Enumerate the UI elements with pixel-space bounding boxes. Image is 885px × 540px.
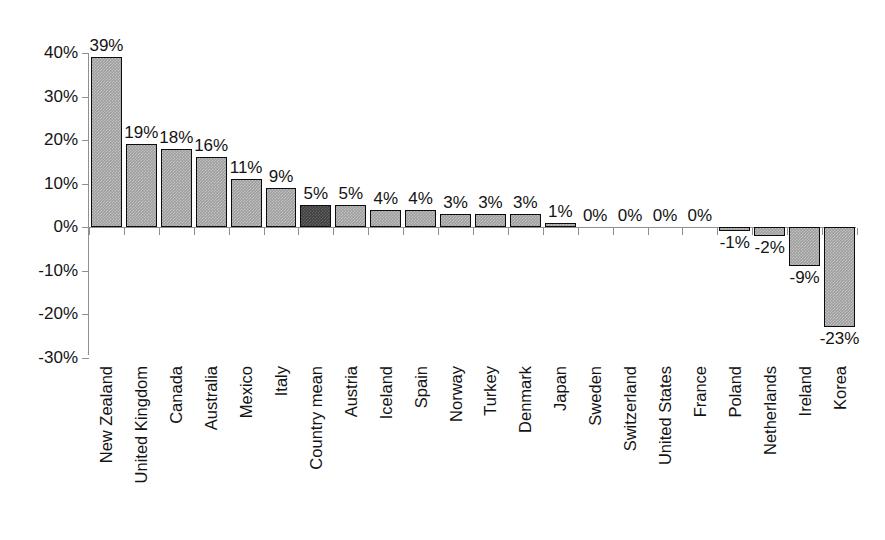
x-axis-category-label: Denmark	[517, 366, 534, 433]
y-axis-tick-label: -30%	[4, 349, 78, 366]
x-axis-tick-mark	[857, 228, 858, 235]
x-axis-category-label: Korea	[831, 366, 848, 410]
bar-group[interactable]: 11%	[229, 30, 264, 360]
x-axis-category[interactable]: Poland	[717, 366, 752, 526]
x-axis-category[interactable]: Denmark	[508, 366, 543, 526]
x-axis-category[interactable]: Sweden	[578, 366, 613, 526]
x-axis-category-label: Japan	[552, 366, 569, 411]
bar[interactable]	[126, 144, 157, 227]
x-axis-category[interactable]: Iceland	[368, 366, 403, 526]
x-axis-category[interactable]: Austria	[333, 366, 368, 526]
bar[interactable]	[161, 149, 192, 227]
x-axis-tick-mark	[229, 228, 230, 235]
x-axis-category-label: Iceland	[377, 366, 394, 419]
bar-group[interactable]: -23%	[822, 30, 857, 360]
x-axis-tick-mark	[89, 228, 90, 235]
x-axis-category[interactable]: United States	[648, 366, 683, 526]
bar-group[interactable]: 0%	[648, 30, 683, 360]
y-axis-tick-label: 40%	[4, 44, 78, 61]
x-axis-category[interactable]: Japan	[543, 366, 578, 526]
bar-group[interactable]: 0%	[613, 30, 648, 360]
x-axis-category[interactable]: Turkey	[473, 366, 508, 526]
x-axis-tick-mark	[752, 228, 753, 235]
x-axis-tick-mark	[194, 228, 195, 235]
x-axis-category[interactable]: Spain	[403, 366, 438, 526]
bar-group[interactable]: 3%	[508, 30, 543, 360]
y-axis-tick-mark	[82, 358, 89, 359]
x-axis-category-label: Australia	[203, 366, 220, 430]
bar[interactable]	[824, 227, 855, 327]
bar-group[interactable]: 0%	[682, 30, 717, 360]
x-axis-tick-mark	[508, 228, 509, 235]
x-axis-tick-mark	[822, 228, 823, 235]
bar-chart: 40%30%20%10%0%-10%-20%-30% 39%19%18%16%1…	[0, 0, 885, 540]
x-axis-category[interactable]: Korea	[822, 366, 857, 526]
bar-group[interactable]: 18%	[159, 30, 194, 360]
x-axis-tick-mark	[543, 228, 544, 235]
x-axis-category-label: Canada	[168, 366, 185, 424]
y-axis-tick-label: 0%	[4, 218, 78, 235]
x-axis-tick-mark	[682, 228, 683, 235]
x-axis-tick-mark	[787, 228, 788, 235]
bar[interactable]	[440, 214, 471, 227]
x-axis-category-label: United States	[656, 366, 673, 465]
x-axis-category-label: Switzerland	[622, 366, 639, 451]
bar-group[interactable]: 19%	[124, 30, 159, 360]
x-axis-category-label: Austria	[342, 366, 359, 417]
x-axis-tick-mark	[333, 228, 334, 235]
y-axis-tick-label: 10%	[4, 175, 78, 192]
x-axis-tick-mark	[368, 228, 369, 235]
bar[interactable]	[335, 205, 366, 227]
x-axis-category-label: Netherlands	[761, 366, 778, 455]
x-axis-category-label: Spain	[412, 366, 429, 408]
x-axis-category[interactable]: Canada	[159, 366, 194, 526]
x-axis-tick-mark	[438, 228, 439, 235]
x-axis-category[interactable]: Switzerland	[613, 366, 648, 526]
x-axis-category-label: Sweden	[587, 366, 604, 426]
bar-group[interactable]: -9%	[787, 30, 822, 360]
x-axis-category[interactable]: New Zealand	[89, 366, 124, 526]
bar-group[interactable]: 1%	[543, 30, 578, 360]
x-axis-ticks	[89, 228, 857, 236]
x-axis-category[interactable]: Country mean	[298, 366, 333, 526]
x-axis-category-label: Country mean	[307, 366, 324, 470]
x-axis-tick-mark	[403, 228, 404, 235]
x-axis-tick-mark	[613, 228, 614, 235]
x-axis-tick-mark	[124, 228, 125, 235]
bar[interactable]	[231, 179, 262, 227]
x-axis-category-label: France	[691, 366, 708, 417]
x-axis-category-label: Poland	[726, 366, 743, 417]
bar-group[interactable]: -2%	[752, 30, 787, 360]
x-axis-category[interactable]: Netherlands	[752, 366, 787, 526]
x-axis-category-label: Italy	[272, 366, 289, 396]
x-axis-tick-mark	[648, 228, 649, 235]
x-axis-category[interactable]: Italy	[264, 366, 299, 526]
x-axis-category-label: United Kingdom	[133, 366, 150, 483]
x-axis-category-label: Ireland	[796, 366, 813, 416]
bar-group[interactable]: -1%	[717, 30, 752, 360]
x-axis-tick-mark	[717, 228, 718, 235]
x-axis-category[interactable]: Ireland	[787, 366, 822, 526]
x-axis-category-label: Mexico	[238, 366, 255, 418]
x-axis-tick-mark	[578, 228, 579, 235]
x-axis-category-label: New Zealand	[98, 366, 115, 463]
x-axis-category[interactable]: France	[682, 366, 717, 526]
bar[interactable]	[370, 210, 401, 227]
x-axis-tick-mark	[264, 228, 265, 235]
x-axis-category[interactable]: Norway	[438, 366, 473, 526]
x-axis-category[interactable]: Mexico	[229, 366, 264, 526]
bar-value-label: -23%	[813, 330, 866, 348]
bar[interactable]	[475, 214, 506, 227]
x-axis-category-label: Turkey	[482, 366, 499, 416]
x-axis-labels: New ZealandUnited KingdomCanadaAustralia…	[89, 366, 857, 536]
x-axis-category[interactable]: Australia	[194, 366, 229, 526]
x-axis-category[interactable]: United Kingdom	[124, 366, 159, 526]
x-axis-tick-mark	[473, 228, 474, 235]
plot-area: 39%19%18%16%11%9%5%5%4%4%3%3%3%1%0%0%0%0…	[89, 30, 857, 360]
x-axis-category-label: Norway	[447, 366, 464, 422]
bar-group[interactable]: 39%	[89, 30, 124, 360]
bar[interactable]	[300, 205, 331, 227]
bar-group[interactable]: 0%	[578, 30, 613, 360]
bar-group[interactable]: 16%	[194, 30, 229, 360]
bar[interactable]	[405, 210, 436, 227]
